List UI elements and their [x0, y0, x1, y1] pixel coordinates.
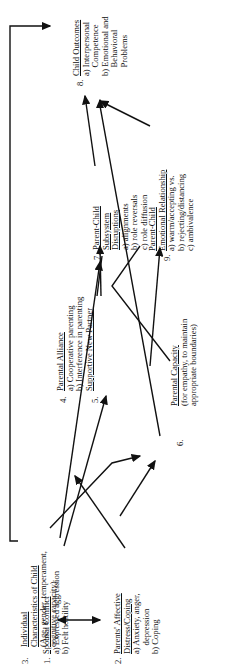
node-8-item-b-cont2: Problems	[120, 16, 130, 76]
node-parental-alliance: Parental Alliance a) Cooperative parenti…	[56, 297, 94, 391]
node-4-number: 4.	[58, 397, 68, 403]
node-6-detail-2: appropriate boundaries)	[189, 319, 199, 406]
edge-7-8	[85, 96, 95, 166]
node-1-number: 1.	[42, 658, 52, 664]
node-1-item-b: b) Felt hostility	[61, 571, 71, 654]
node-parental-capacity: Parental Capacity (for empathy, to maint…	[170, 319, 199, 406]
edge-2-5	[75, 476, 125, 548]
node-individual-characteristics: Individual Characteristics of Child (Age…	[20, 551, 58, 647]
node-2-number: 2.	[113, 658, 123, 664]
node-2-item-b: b) Coping	[151, 593, 161, 654]
edge-4-9	[150, 248, 160, 366]
node-child-outcomes: Child Outcomes a) Interpersonal Competen…	[72, 16, 130, 76]
node-3-detail-2: cognitive capacity)	[49, 551, 59, 647]
edge-6-8	[100, 100, 160, 436]
edge-6-9	[112, 246, 170, 361]
node-5-number: 5.	[90, 397, 100, 403]
node-parent-child-emotional: Parent-Child Emotional Relationship a) w…	[148, 170, 196, 251]
node-8-number: 8.	[75, 80, 85, 86]
node-5-title: Supportive New Partner	[85, 297, 95, 391]
node-9-item-c: c) ambivalence	[186, 170, 196, 251]
edge-3-8	[10, 26, 50, 541]
diagram-canvas: 1. Spousal Conflict a) Expressed aggress…	[0, 0, 234, 666]
node-7-number: 7.	[92, 254, 102, 260]
node-3-number: 3.	[20, 658, 30, 664]
node-parent-child-subsystem: Parent-Child Subsystem Disruptions a) al…	[92, 195, 150, 250]
node-9-number: 9.	[162, 255, 172, 261]
node-parents-affective-distress: Parents' Affective Distress/Coping a) An…	[113, 593, 161, 654]
edge-2-6	[120, 461, 155, 516]
node-6-number: 6.	[175, 440, 185, 446]
edge-9-8	[100, 101, 150, 126]
